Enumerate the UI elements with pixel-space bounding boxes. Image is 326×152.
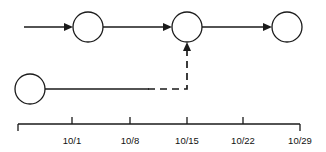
- arrow-head-dashed-into-node2: [183, 42, 191, 51]
- arrow-head-into-node3: [263, 23, 272, 31]
- axis-tick-label-10-22: 10/22: [231, 135, 255, 146]
- edge-dashed-slack-to-node2: [148, 42, 191, 89]
- timeline-axis: 10/1 10/8 10/15 10/22 10/29: [18, 117, 312, 146]
- arrow-head-into-node1: [64, 23, 73, 31]
- diagram-canvas: 10/1 10/8 10/15 10/22 10/29: [0, 0, 326, 152]
- axis-tick-label-10-1: 10/1: [63, 135, 82, 146]
- axis-tick-label-10-15: 10/15: [175, 135, 199, 146]
- network-schedule-diagram: 10/1 10/8 10/15 10/22 10/29: [0, 0, 326, 152]
- axis-tick-label-10-29: 10/29: [288, 135, 312, 146]
- arrow-head-into-node2: [163, 23, 172, 31]
- edge-node2-to-node3: [202, 23, 272, 31]
- edge-node1-to-node2: [103, 23, 172, 31]
- edge-start-to-node1: [24, 23, 73, 31]
- axis-tick-label-10-8: 10/8: [121, 135, 140, 146]
- node-circle-4[interactable]: [15, 74, 45, 104]
- node-circle-2[interactable]: [172, 12, 202, 42]
- edge-dashed-elbow-path: [148, 50, 187, 89]
- node-circle-1[interactable]: [73, 12, 103, 42]
- node-circle-3[interactable]: [272, 12, 302, 42]
